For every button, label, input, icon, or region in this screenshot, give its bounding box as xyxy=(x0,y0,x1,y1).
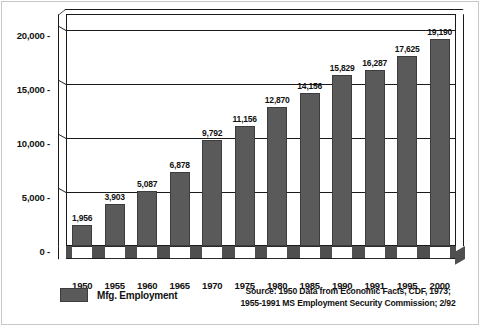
bar-1960: 5,087 xyxy=(137,14,157,246)
bar-base-face-1995 xyxy=(397,246,417,259)
bar-rect-1955 xyxy=(105,204,125,246)
source-note-line-2: 1955-1991 MS Employment Security Commiss… xyxy=(222,297,474,309)
bar-1965: 6,878 xyxy=(170,14,190,246)
bar-base-face-1980 xyxy=(267,246,287,259)
bar-base-face-1990 xyxy=(332,246,352,259)
bar-1975: 11,156 xyxy=(235,14,255,246)
bar-base-face-1991 xyxy=(365,246,385,259)
legend-swatch-mfg-employment xyxy=(60,288,88,302)
bar-value-label-1985: 14,156 xyxy=(297,81,322,91)
chart-figure: 0 -5,000 -10,000 -15,000 -20,000 - 1,956… xyxy=(0,0,480,326)
bar-rect-1991 xyxy=(365,70,385,246)
y-axis-tick-5000: 5,000 - xyxy=(0,192,50,203)
chart-legend: Mfg. Employment xyxy=(60,288,177,302)
bar-value-label-1975: 11,156 xyxy=(233,114,257,124)
y-axis-tick-20000: 20,000 - xyxy=(0,30,50,41)
bar-series-mfg-employment: 1,9563,9035,0876,8789,79211,15612,87014,… xyxy=(66,14,456,246)
bar-value-label-1990: 15,829 xyxy=(330,63,355,73)
bar-rect-2000 xyxy=(430,39,450,246)
bar-2000: 19,190 xyxy=(430,14,450,246)
bar-rect-1980 xyxy=(267,107,287,246)
bar-value-label-1995: 17,625 xyxy=(395,44,420,54)
bar-base-face-1975 xyxy=(235,246,255,259)
bar-base-face-1950 xyxy=(72,246,92,259)
bar-rect-1960 xyxy=(137,191,157,246)
source-note: Source: 1950 Data from Economic Facts, C… xyxy=(222,285,474,310)
bar-1970: 9,792 xyxy=(202,14,222,246)
bar-rect-1995 xyxy=(397,56,417,246)
chart-plot-box: 1,9563,9035,0876,8789,79211,15612,87014,… xyxy=(58,14,464,260)
y-axis-tick-10000: 10,000 - xyxy=(0,138,50,149)
bar-base-face-2000 xyxy=(430,246,450,259)
bar-1990: 15,829 xyxy=(332,14,352,246)
bar-value-label-1950: 1,956 xyxy=(72,213,92,223)
bar-value-label-1991: 16,287 xyxy=(362,58,387,68)
bar-rect-1965 xyxy=(170,172,190,246)
legend-label-mfg-employment: Mfg. Employment xyxy=(97,290,177,301)
bar-rect-1950 xyxy=(72,225,92,246)
bar-1985: 14,156 xyxy=(300,14,320,246)
bar-value-label-1970: 9,792 xyxy=(202,128,222,138)
bar-base-face-1965 xyxy=(170,246,190,259)
y-axis-tick-15000: 15,000 - xyxy=(0,84,50,95)
bar-base-face-1970 xyxy=(202,246,222,259)
bar-1980: 12,870 xyxy=(267,14,287,246)
bar-base-face-1985 xyxy=(300,246,320,259)
bar-value-label-1965: 6,878 xyxy=(170,160,190,170)
y-axis-tick-0: 0 - xyxy=(0,246,50,257)
bar-rect-1970 xyxy=(202,140,222,246)
bar-1950: 1,956 xyxy=(72,14,92,246)
bar-rect-1985 xyxy=(300,93,320,246)
bar-value-label-2000: 19,190 xyxy=(427,27,452,37)
plot-right-wall xyxy=(455,14,464,251)
bar-rect-1975 xyxy=(235,126,255,246)
bar-1955: 3,903 xyxy=(105,14,125,246)
bar-value-label-1980: 12,870 xyxy=(265,95,290,105)
bar-rect-1990 xyxy=(332,75,352,246)
bar-base-face-1955 xyxy=(105,246,125,259)
bar-value-label-1960: 5,087 xyxy=(137,179,157,189)
source-note-line-1: Source: 1950 Data from Economic Facts, C… xyxy=(222,285,474,297)
bar-1991: 16,287 xyxy=(365,14,385,246)
bar-value-label-1955: 3,903 xyxy=(105,192,125,202)
bar-1995: 17,625 xyxy=(397,14,417,246)
bar-base-face-1960 xyxy=(137,246,157,259)
